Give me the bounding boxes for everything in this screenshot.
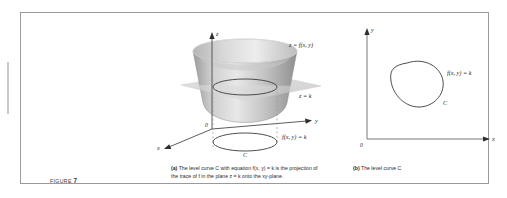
panel-a-diagram: z y x 0 z = f(x, y) z = k f(x, y) = k C xyxy=(149,17,339,157)
x-axis-label: x xyxy=(491,135,495,142)
y-axis xyxy=(364,28,369,139)
caption-b-tag: (b) xyxy=(353,165,360,171)
level-curve-C xyxy=(391,61,444,107)
panel-b-svg: y x 0 f(x, y) = k C xyxy=(351,17,501,157)
level-curve-equation-label: f(x, y) = k xyxy=(282,133,307,141)
figure-frame: z y x 0 z = f(x, y) z = k f(x, y) = k C xyxy=(20,12,489,184)
x-axis xyxy=(367,136,490,141)
caption-b: (b) The level curve C xyxy=(353,164,473,172)
figure-page: z y x 0 z = f(x, y) z = k f(x, y) = k C xyxy=(0,0,507,198)
figure-label: FIGURE 7 xyxy=(50,177,77,184)
figure-number: 7 xyxy=(74,177,78,184)
plane-equation-label: z = k xyxy=(298,92,312,99)
y-axis-label: y xyxy=(370,26,374,33)
origin-label: 0 xyxy=(205,122,208,128)
caption-b-text: The level curve C xyxy=(361,165,401,171)
caption-a-tag: (a) xyxy=(171,165,177,171)
z-axis-label: z xyxy=(215,30,219,37)
x-axis xyxy=(164,129,212,149)
curve-name-label: C xyxy=(443,99,448,106)
paraboloid-surface xyxy=(193,39,297,123)
figure-label-word: FIGURE xyxy=(50,178,72,184)
x-axis-label: x xyxy=(156,144,160,151)
caption-a-text: The level curve C with equation f(x, y) … xyxy=(171,165,318,179)
panel-a-svg: z y x 0 z = f(x, y) z = k f(x, y) = k C xyxy=(149,17,339,157)
y-axis-label: y xyxy=(314,117,318,124)
level-curve-C xyxy=(213,133,277,151)
page-edge-mark xyxy=(7,62,9,114)
level-curve-equation-label: f(x, y) = k xyxy=(447,69,472,77)
surface-equation-label: z = f(x, y) xyxy=(288,41,313,49)
origin-label: 0 xyxy=(360,142,363,148)
caption-a: (a) The level curve C with equation f(x,… xyxy=(171,164,321,180)
panel-b-diagram: y x 0 f(x, y) = k C xyxy=(351,17,501,157)
curve-name-label: C xyxy=(243,151,248,157)
